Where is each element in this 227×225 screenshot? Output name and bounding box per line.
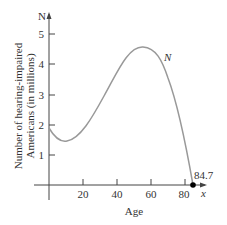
endpoint-label: 84.7 — [194, 169, 214, 181]
y-tick-label-2: 2 — [39, 119, 45, 131]
x-ticks — [83, 179, 185, 185]
y-tick-label-5: 5 — [39, 28, 45, 40]
x-axis-letter: x — [200, 187, 206, 199]
chart: 1 2 3 4 5 20 40 60 80 N x N 84.7 Age Num… — [0, 0, 227, 225]
x-tick-label-40: 40 — [112, 188, 124, 200]
x-tick-label-60: 60 — [146, 188, 158, 200]
x-tick-label-80: 80 — [179, 188, 191, 200]
curve-label: N — [163, 51, 172, 63]
y-axis-label-line1: Number of hearing-impaired — [12, 42, 24, 169]
endpoint-dot — [190, 182, 196, 188]
y-tick-label-1: 1 — [39, 149, 45, 161]
y-axis-label-line2: Americans (in millions) — [24, 53, 37, 158]
y-tick-label-4: 4 — [39, 58, 45, 70]
x-tick-label-20: 20 — [78, 188, 90, 200]
y-tick-label-3: 3 — [39, 89, 45, 101]
curve-n — [49, 47, 193, 185]
x-axis-label: Age — [125, 205, 143, 217]
y-axis-arrow-icon — [47, 12, 52, 19]
y-axis-letter: N — [38, 10, 46, 22]
y-ticks — [49, 34, 55, 155]
